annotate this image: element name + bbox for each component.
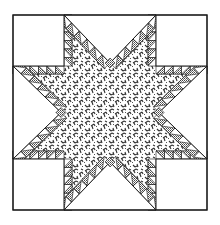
quilt-block-illustration xyxy=(0,0,220,225)
corner-square xyxy=(13,159,64,210)
corner-square xyxy=(13,15,64,66)
corner-square xyxy=(156,15,207,66)
corner-square xyxy=(156,159,207,210)
